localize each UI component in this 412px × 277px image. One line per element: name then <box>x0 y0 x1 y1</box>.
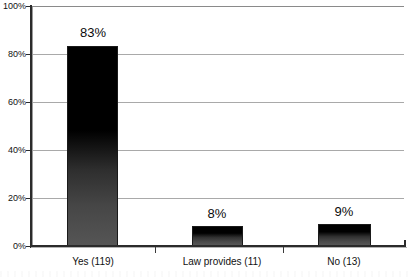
y-tick-20 <box>26 198 31 199</box>
bar-law-provides[interactable] <box>192 226 243 246</box>
bar-no[interactable] <box>318 224 371 246</box>
y-axis-labels: 100% 80% 60% 40% 20% 0% <box>0 0 26 277</box>
y-axis-label-20: 20% <box>0 194 26 203</box>
value-label-law-provides: 8% <box>186 207 248 221</box>
x-tick-1 <box>155 247 156 253</box>
value-label-no: 9% <box>313 205 375 219</box>
y-tick-40 <box>26 150 31 151</box>
y-axis-label-80: 80% <box>0 50 26 59</box>
gridline-100 <box>32 6 404 7</box>
y-axis-label-40: 40% <box>0 146 26 155</box>
x-tick-2 <box>283 247 284 253</box>
y-axis-label-60: 60% <box>0 98 26 107</box>
x-axis-end-cap <box>404 240 406 247</box>
scan-artifact <box>0 271 412 277</box>
y-axis-label-100: 100% <box>0 2 26 11</box>
y-axis-shading <box>32 7 33 248</box>
y-tick-100 <box>26 6 31 7</box>
bar-chart: 100% 80% 60% 40% 20% 0% 83% 8% 9% Yes (1… <box>0 0 412 277</box>
bar-yes[interactable] <box>67 46 118 246</box>
y-tick-80 <box>26 54 31 55</box>
y-tick-60 <box>26 102 31 103</box>
category-label-yes: Yes (119) <box>52 256 134 267</box>
category-label-no: No (13) <box>303 256 385 267</box>
y-axis-label-0: 0% <box>0 242 26 251</box>
value-label-yes: 83% <box>62 26 124 40</box>
x-axis-shading <box>31 247 407 248</box>
category-label-law-provides: Law provides (11) <box>162 256 282 267</box>
y-tick-0 <box>26 246 31 247</box>
